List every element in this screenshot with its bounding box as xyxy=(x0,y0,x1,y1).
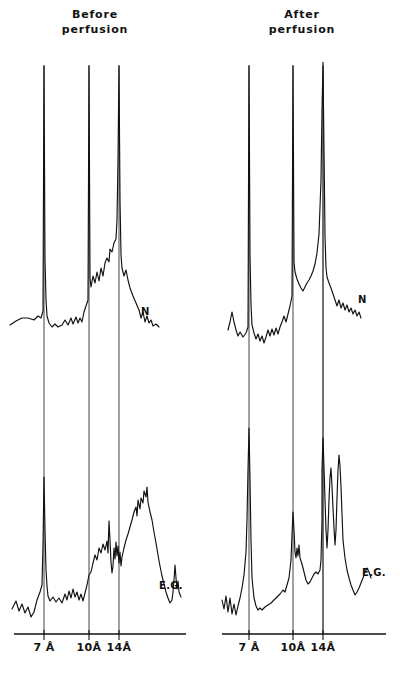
trace-before-n xyxy=(10,66,159,327)
axis-tick-label-14a: 14Å xyxy=(310,641,335,654)
panel-before-title-line1: Before xyxy=(72,8,118,21)
trace-after-eg xyxy=(222,428,371,615)
axis-tick-label-7a: 7 Å xyxy=(33,641,54,654)
panel-after-reference-lines xyxy=(249,62,323,634)
panel-before-title-line2: perfusion xyxy=(62,23,128,36)
axis-tick-label-14a: 14Å xyxy=(106,641,131,654)
panel-before-axis: 7 Å 10Å 14Å xyxy=(14,630,186,654)
panel-after: After perfusion N E.G. 7 Å 10Å 14Å xyxy=(222,8,386,654)
axis-tick-label-7a: 7 Å xyxy=(238,641,259,654)
axis-tick-label-10a: 10Å xyxy=(280,641,305,654)
diffractogram-figure: Before perfusion N E.G. 7 Å 10Å 14Å Afte… xyxy=(0,0,403,676)
panel-after-title-line1: After xyxy=(284,8,319,21)
trace-before-eg xyxy=(12,477,181,617)
trace-label-before-eg: E.G. xyxy=(159,580,183,591)
trace-label-after-eg: E.G. xyxy=(362,567,386,578)
panel-after-title-line2: perfusion xyxy=(269,23,335,36)
trace-after-n xyxy=(228,66,361,343)
trace-label-after-n: N xyxy=(358,294,367,305)
panel-before: Before perfusion N E.G. 7 Å 10Å 14Å xyxy=(10,8,186,654)
panel-after-axis: 7 Å 10Å 14Å xyxy=(222,630,386,654)
axis-tick-label-10a: 10Å xyxy=(76,641,101,654)
trace-label-before-n: N xyxy=(141,306,150,317)
